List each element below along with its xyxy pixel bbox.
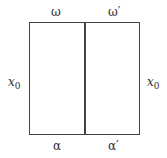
- right-side-label-sub: 0: [154, 81, 160, 91]
- left-side-label-main: x: [8, 75, 15, 89]
- bottom-left-label: α: [53, 140, 61, 152]
- right-side-label-main: x: [147, 75, 154, 89]
- center-divider: [84, 22, 86, 135]
- bottom-right-label: α′: [108, 140, 119, 152]
- top-left-label: ω: [51, 6, 61, 18]
- left-side-label: x0: [8, 76, 21, 89]
- left-side-label-sub: 0: [15, 81, 21, 91]
- top-right-label: ω′: [108, 6, 121, 18]
- right-side-label: x0: [147, 76, 160, 89]
